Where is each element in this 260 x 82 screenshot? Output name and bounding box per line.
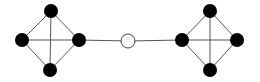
node-l-right: [72, 33, 86, 47]
graph-diagram: [0, 0, 260, 82]
node-r-top: [203, 4, 217, 18]
node-r-bottom: [203, 63, 217, 77]
node-l-top: [44, 4, 58, 18]
node-center: [121, 34, 135, 48]
node-r-right: [230, 33, 244, 47]
node-l-left: [15, 33, 29, 47]
edge-L_top-L_bottom: [50, 11, 51, 70]
node-r-left: [175, 33, 189, 47]
edge-center-R_left: [128, 40, 182, 41]
node-l-bottom: [43, 63, 57, 77]
